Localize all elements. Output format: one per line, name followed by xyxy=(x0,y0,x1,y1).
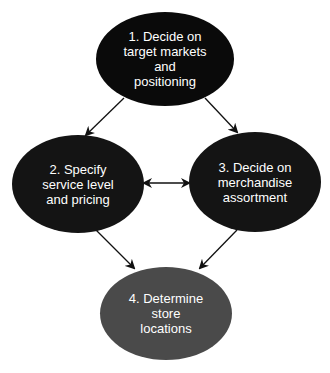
node-label: 2. Specify service level and pricing xyxy=(42,162,114,207)
arrow-n2-n4 xyxy=(96,230,134,268)
node-merchandise: 3. Decide on merchandise assortment xyxy=(189,132,321,232)
arrow-n1-n2 xyxy=(86,98,124,135)
node-store-locations: 4. Determine store locations xyxy=(100,267,232,360)
arrow-n1-n3 xyxy=(205,98,237,132)
node-target-markets: 1. Decide on target markets and position… xyxy=(96,12,234,106)
arrow-n3-n4 xyxy=(200,230,237,268)
node-label: 3. Decide on merchandise assortment xyxy=(218,160,292,205)
node-service-level: 2. Specify service level and pricing xyxy=(12,135,144,233)
node-label: 4. Determine store locations xyxy=(129,291,203,336)
node-label: 1. Decide on target markets and position… xyxy=(123,29,206,89)
